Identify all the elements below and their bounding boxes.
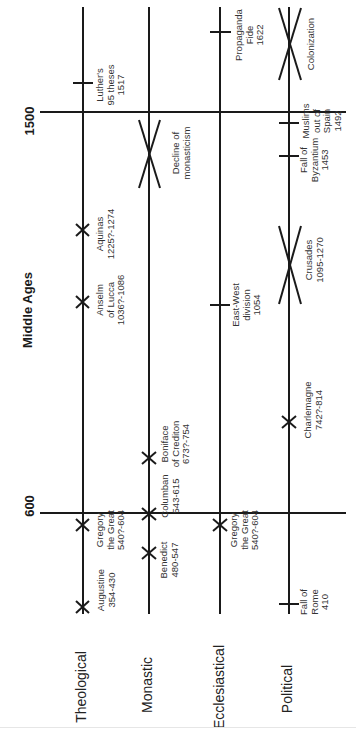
big-x-mark-icon-decline: [139, 120, 160, 188]
event-label-luther: Luther's 95 theses 1517: [95, 64, 127, 105]
x-mark-icon-boniface: [142, 452, 156, 464]
event-label-colonization: Colonization: [306, 18, 317, 70]
event-label-charlemagne: Charlemagne 742?-814: [303, 381, 324, 438]
event-label-boniface: Boniface of Crediton 673?-754: [160, 421, 192, 467]
big-x-mark-icon-crusades: [279, 226, 301, 304]
bottom-divider: [0, 727, 356, 728]
x-mark-icon-columban: [142, 508, 156, 520]
x-mark-icon-anselm: [76, 296, 89, 308]
event-label-eastwest: East-West division 1054: [231, 283, 263, 327]
event-label-crusades: Crusades 1095-1270: [304, 237, 325, 282]
x-mark-icon-aquinas: [76, 224, 89, 236]
event-label-columban: Columban 543-615: [160, 474, 181, 517]
event-label-fall-rome: Fall of Rome 410: [299, 589, 331, 615]
x-mark-icon-gregory-theo: [76, 519, 89, 531]
x-mark-icon-charlemagne: [282, 416, 296, 428]
event-label-decline: Decline of monasticism: [171, 127, 192, 180]
event-label-muslims: Muslims out of Spain 1492: [301, 104, 344, 139]
event-label-anselm: Anselm of Lucca 1036?-1086: [95, 275, 127, 326]
event-label-gregory-eccl: Gregory the Great 540?-604: [229, 510, 261, 550]
event-label-byzantium: Fall of Byzantium 1453: [299, 138, 331, 182]
event-label-gregory-theo: Gregory the Great 540?-604: [95, 510, 127, 550]
x-mark-icon-gregory-eccl: [213, 519, 227, 531]
event-label-augustine: Augustine 354-430: [96, 569, 117, 611]
event-label-aquinas: Aquinas 1225?-1274: [95, 209, 116, 260]
timeline-diagram: 1500 600 Middle Ages Theological Monasti…: [0, 0, 356, 730]
event-label-propaganda: Propaganda Fide 1622: [234, 9, 266, 61]
big-x-mark-icon-colonization: [279, 8, 301, 80]
x-mark-icon-augustine: [76, 601, 89, 613]
x-mark-icon-benedict: [142, 547, 156, 559]
event-label-benedict: Benedict 480-547: [159, 542, 180, 579]
